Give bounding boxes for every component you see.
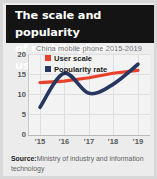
legend-swatch-icon [45,55,51,61]
legend-item-user-scale[interactable]: User scale [45,53,107,63]
legend-swatch-icon [45,66,51,72]
legend-item-popularity-rate[interactable]: Popularity rate [45,64,107,74]
legend-label-popularity-rate: Popularity rate [54,65,107,74]
y-axis-labels: 20 15 10 5 0 [3,54,26,136]
y-tick-0: 0 [4,130,26,139]
source-note: Source:Ministry of industry and informat… [11,154,153,173]
x-tick-18: '18 [108,137,118,146]
x-tick-19: '19 [133,137,143,146]
y-tick-5: 5 [4,110,26,119]
chart-subtitle: China mobile phone 2015-2019 [36,44,142,53]
title-banner: The scale and popularity of mobile phone… [6,5,157,43]
y-tick-20: 20 [4,50,26,59]
chart-card: The scale and popularity of mobile phone… [0,0,157,179]
x-tick-17: '17 [84,137,94,146]
source-label: Source: [11,155,37,162]
legend-label-user-scale: User scale [54,54,92,63]
y-tick-10: 10 [4,90,26,99]
x-tick-16: '16 [59,137,69,146]
x-tick-15: '15 [35,137,45,146]
chart-legend: User scale Popularity rate [45,53,107,75]
y-tick-15: 15 [4,70,26,79]
x-axis-labels: '15 '16 '17 '18 '19 [28,137,150,149]
